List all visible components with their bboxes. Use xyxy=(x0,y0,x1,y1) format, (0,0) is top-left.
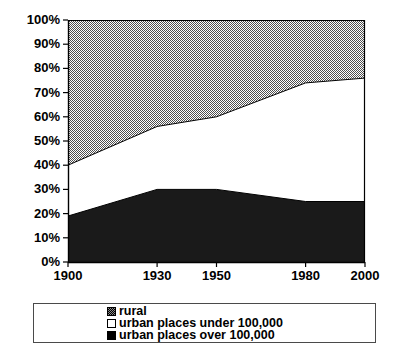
chart-legend: rural urban places under 100,000 urban p… xyxy=(33,303,376,343)
x-axis-label-2000: 2000 xyxy=(351,268,380,283)
y-axis-label-10: 10% xyxy=(34,231,60,244)
urban-under-swatch-icon xyxy=(107,319,116,328)
y-axis-label-30: 30% xyxy=(34,182,60,195)
stacked-area-chart: 0%10%20%30%40%50%60%70%80%90%100% 190019… xyxy=(0,0,397,353)
x-axis-label-1930: 1930 xyxy=(143,268,172,283)
y-axis-tick-marks xyxy=(63,20,68,262)
rural-swatch-icon xyxy=(107,307,116,316)
y-axis-label-40: 40% xyxy=(34,158,60,171)
y-axis-label-50: 50% xyxy=(34,134,60,147)
urban-over-swatch-icon xyxy=(107,331,116,340)
y-axis-label-100: 100% xyxy=(27,13,60,26)
y-axis-labels: 0%10%20%30%40%50%60%70%80%90%100% xyxy=(8,0,60,353)
legend-item-list: rural urban places under 100,000 urban p… xyxy=(107,305,283,341)
x-axis-label-1950: 1950 xyxy=(202,268,231,283)
y-axis-label-20: 20% xyxy=(34,207,60,220)
y-axis-label-90: 90% xyxy=(34,37,60,50)
x-axis-labels: 19001930195019802000 xyxy=(0,268,397,290)
y-axis-label-80: 80% xyxy=(34,61,60,74)
legend-item-urban-over-100k: urban places over 100,000 xyxy=(107,329,283,341)
legend-label-urban-over-100k: urban places over 100,000 xyxy=(119,329,275,341)
y-axis-label-70: 70% xyxy=(34,86,60,99)
y-axis-label-0: 0% xyxy=(41,255,60,268)
y-axis-label-60: 60% xyxy=(34,110,60,123)
x-axis-label-1900: 1900 xyxy=(54,268,83,283)
x-axis-label-1980: 1980 xyxy=(291,268,320,283)
